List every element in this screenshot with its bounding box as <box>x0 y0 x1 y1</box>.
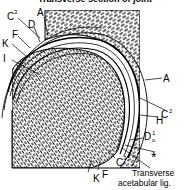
label-h-right: H <box>156 115 163 126</box>
label-d-right: D <box>144 131 151 142</box>
label-k-bottom: K <box>93 173 100 184</box>
label-f-bottom: F <box>102 169 108 180</box>
femoral-head <box>12 48 125 168</box>
label-i-left: I <box>3 53 6 64</box>
label-c2-right-sup: 2 <box>169 108 173 114</box>
label-d-top: D <box>28 19 35 30</box>
label-d-right-sup: 1 <box>152 130 156 136</box>
label-k-left: K <box>2 38 9 49</box>
label-star: * <box>151 149 157 165</box>
hip-joint-diagram: C 3 A D F K I A C 2 H D 1 o * C 3 F K <box>0 0 184 190</box>
label-f-left: F <box>12 29 18 40</box>
caption-line-1: Transverse <box>132 168 174 178</box>
caption-line-2: acetabular lig. <box>118 178 171 188</box>
label-a-top: A <box>37 7 44 18</box>
label-d-right-sub: o <box>152 137 156 143</box>
label-c3-top-sup: 3 <box>14 9 18 15</box>
label-a-right: A <box>163 73 170 84</box>
